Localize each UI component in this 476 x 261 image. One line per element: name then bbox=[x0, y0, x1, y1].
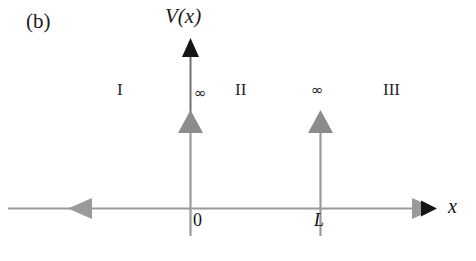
region-label-III: III bbox=[383, 81, 400, 98]
origin-tick-label: 0 bbox=[193, 211, 202, 229]
well-width-tick-label: L bbox=[314, 211, 324, 229]
vertical-axis-title: V(x) bbox=[165, 6, 201, 27]
x-axis-right-arrowhead-black bbox=[421, 201, 437, 217]
figure-canvas bbox=[0, 0, 476, 261]
potential-well-figure: (b) V(x) I II III ∞ ∞ 0 L x bbox=[0, 0, 476, 261]
infinity-label-origin: ∞ bbox=[194, 86, 207, 101]
horizontal-axis-title: x bbox=[448, 196, 457, 216]
region-label-I: I bbox=[117, 81, 123, 98]
barrier-arrowhead-L bbox=[308, 110, 333, 133]
region-label-II: II bbox=[235, 81, 246, 98]
barrier-arrowhead-origin bbox=[178, 110, 203, 133]
v-axis-arrowhead bbox=[182, 38, 199, 57]
panel-label: (b) bbox=[26, 11, 51, 32]
x-axis-left-arrowhead bbox=[68, 198, 92, 219]
infinity-label-L: ∞ bbox=[311, 83, 324, 98]
